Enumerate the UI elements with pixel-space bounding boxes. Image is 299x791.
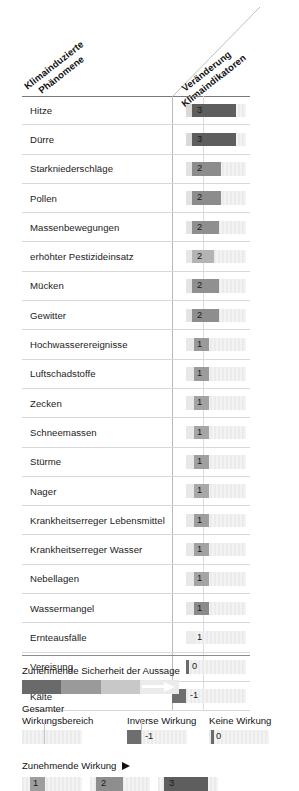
row-bar-cell: 1: [172, 388, 250, 417]
row-bar-cell: 1: [172, 476, 250, 505]
legend-inverse-effect-tick: [141, 720, 142, 744]
bar-track: 3: [186, 104, 246, 118]
legend-swatch-value: 2: [101, 777, 106, 791]
row-label: Krankheitserreger Lebensmittel: [22, 515, 172, 526]
row-bar-cell: 1: [172, 506, 250, 535]
bar-track: 1: [186, 602, 246, 616]
table-row[interactable]: Nebellagen1: [22, 565, 250, 594]
row-bar-cell: 1: [172, 594, 250, 623]
bar-value-label: -1: [190, 689, 198, 703]
bar-lead-segment: [186, 426, 194, 440]
bar-value-label: 1: [197, 367, 202, 381]
bar-track: 3: [186, 133, 246, 147]
bar-value-label: 2: [197, 279, 202, 293]
row-label: Luftschadstoffe: [22, 368, 172, 379]
row-label: Gewitter: [22, 310, 172, 321]
row-label: Schneemassen: [22, 427, 172, 438]
legend-no-effect-block: [211, 730, 214, 744]
table-row[interactable]: Nager1: [22, 477, 250, 506]
table-row[interactable]: Schneemassen1: [22, 418, 250, 447]
bar-value-label: 1: [197, 484, 202, 498]
bar-fill: [192, 250, 214, 264]
row-bar-cell: 2: [172, 213, 250, 242]
legend-swatch-value: 1: [33, 777, 38, 791]
row-label: Pollen: [22, 193, 172, 204]
bar-track: 2: [186, 250, 246, 264]
legend-swatch: 3: [158, 777, 218, 791]
bar-value-label: 1: [197, 543, 202, 557]
row-label: Nebellagen: [22, 573, 172, 584]
bar-value-label: 1: [197, 514, 202, 528]
legend-total-range-title-line2: Wirkungsbereich: [22, 715, 127, 727]
legend-no-effect: Keine Wirkung 0: [209, 703, 284, 744]
legend-confidence: Zunehmende Sicherheit der Aussage: [22, 665, 252, 694]
table-row[interactable]: Hitze3: [22, 96, 250, 125]
bar-track: 2: [186, 221, 246, 235]
table-row[interactable]: Hochwasserereignisse1: [22, 330, 250, 359]
table-row[interactable]: erhöhter Pestizideinsatz2: [22, 242, 250, 271]
row-bar-cell: 1: [172, 535, 250, 564]
row-label: Stürme: [22, 456, 172, 467]
row-label: erhöhter Pestizideinsatz: [22, 251, 172, 262]
bar-value-label: 2: [197, 191, 202, 205]
bar-lead-segment: [186, 396, 194, 410]
row-bar-cell: 2: [172, 242, 250, 271]
bar-lead-segment: [186, 367, 194, 381]
table-row[interactable]: Wassermangel1: [22, 594, 250, 623]
row-bar-cell: 1: [172, 330, 250, 359]
legend-increasing-effect: Zunehmende Wirkung 123: [22, 760, 282, 791]
legend-inverse-effect-swatch: -1: [127, 730, 187, 744]
table-row[interactable]: Luftschadstoffe1: [22, 360, 250, 389]
bar-value-label: 3: [197, 104, 202, 118]
table-row[interactable]: Ernteausfälle1: [22, 623, 250, 652]
bar-value-label: 2: [197, 221, 202, 235]
table-row[interactable]: Gewitter2: [22, 301, 250, 330]
row-bar-cell: 2: [172, 183, 250, 212]
table-row[interactable]: Dürre3: [22, 125, 250, 154]
row-label: Hochwasserereignisse: [22, 339, 172, 350]
bar-value-label: 2: [197, 250, 202, 264]
legend-total-range-swatch: [22, 730, 82, 744]
row-bar-cell: 2: [172, 301, 250, 330]
bar-value-label: 1: [197, 602, 202, 616]
legend-confidence-segment: [101, 680, 140, 694]
legend-no-effect-value: 0: [216, 730, 221, 744]
bar-lead-segment: [186, 602, 194, 616]
table-row[interactable]: Krankheitserreger Wasser1: [22, 535, 250, 564]
table-row[interactable]: Stürme1: [22, 448, 250, 477]
column-header-phenomena: Klimainduzierte Phänomene: [22, 38, 93, 101]
table-row[interactable]: Zecken1: [22, 389, 250, 418]
legend-swatch: 1: [22, 777, 82, 791]
bar-lead-segment: [186, 631, 194, 645]
row-bar-cell: 3: [172, 125, 250, 154]
legend-increasing-effect-title: Zunehmende Wirkung: [22, 760, 116, 771]
row-bar-cell: 1: [172, 359, 250, 388]
table-row[interactable]: Pollen2: [22, 184, 250, 213]
bar-lead-segment: [186, 455, 194, 469]
legend-confidence-arrow-icon: [164, 682, 175, 692]
table-row[interactable]: Mücken2: [22, 272, 250, 301]
legend-inverse-effect-title: Inverse Wirkung: [127, 715, 209, 727]
bar-lead-segment: [186, 484, 194, 498]
bar-track: 1: [186, 338, 246, 352]
row-bar-cell: 1: [172, 623, 250, 652]
table-row[interactable]: Starkniederschläge2: [22, 155, 250, 184]
legend-confidence-gradient: [22, 680, 179, 694]
row-bar-cell: 1: [172, 564, 250, 593]
phenomena-table: Hitze3Dürre3Starkniederschläge2Pollen2Ma…: [0, 96, 299, 711]
row-label: Wassermangel: [22, 603, 172, 614]
row-label: Zecken: [22, 398, 172, 409]
row-label: Massenbewegungen: [22, 222, 172, 233]
legend-confidence-segment: [22, 680, 61, 694]
bar-track: 2: [186, 162, 246, 176]
row-label: Starkniederschläge: [22, 163, 172, 174]
legend-total-range: Gesamter Wirkungsbereich: [22, 703, 127, 744]
row-label: Mücken: [22, 280, 172, 291]
table-row[interactable]: Massenbewegungen2: [22, 213, 250, 242]
row-label: Dürre: [22, 134, 172, 145]
legend-inverse-effect-value: -1: [145, 730, 153, 744]
row-bar-cell: 1: [172, 418, 250, 447]
bar-track: 1: [186, 484, 246, 498]
table-row[interactable]: Krankheitserreger Lebensmittel1: [22, 506, 250, 535]
legend-total-range-title-line1: Gesamter: [22, 703, 127, 715]
